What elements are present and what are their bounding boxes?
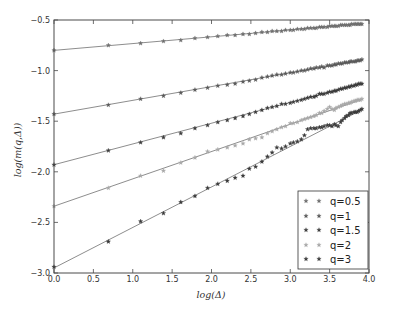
x-tick-label: 0.5 — [87, 275, 100, 284]
y-tick-label: −2.0 — [31, 168, 50, 177]
x-tick-label: 1.0 — [126, 275, 139, 284]
x-tick-label: 2.5 — [245, 275, 258, 284]
legend-label: q=1 — [330, 211, 351, 222]
figure: 0.00.51.01.52.02.53.03.54.0 −3.0−2.5−2.0… — [0, 0, 393, 312]
y-axis-label: log(m(q,Δ)) — [12, 122, 23, 177]
legend-label: q=2 — [330, 240, 351, 251]
x-tick-label: 4.0 — [363, 275, 376, 284]
y-tick-label: −1.0 — [31, 67, 50, 76]
x-tick-label: 3.0 — [284, 275, 297, 284]
legend-label: q=3 — [330, 254, 351, 265]
x-tick-label: 1.5 — [166, 275, 179, 284]
y-tick-label: −2.5 — [31, 218, 50, 227]
x-tick-labels: 0.00.51.01.52.02.53.03.54.0 — [48, 275, 376, 284]
y-tick-label: −0.5 — [31, 16, 50, 25]
y-tick-label: −3.0 — [31, 269, 50, 278]
y-tick-label: −1.5 — [31, 117, 50, 126]
legend: q=0.5q=1q=1.5q=2q=3 — [298, 191, 368, 269]
x-tick-label: 2.0 — [205, 275, 218, 284]
x-tick-label: 3.5 — [323, 275, 336, 284]
legend-label: q=0.5 — [330, 196, 361, 207]
scatter-chart: 0.00.51.01.52.02.53.03.54.0 −3.0−2.5−2.0… — [0, 0, 393, 312]
legend-label: q=1.5 — [330, 225, 361, 236]
x-axis-label: log(Δ) — [196, 289, 225, 300]
y-tick-labels: −3.0−2.5−2.0−1.5−1.0−0.5 — [31, 16, 50, 278]
